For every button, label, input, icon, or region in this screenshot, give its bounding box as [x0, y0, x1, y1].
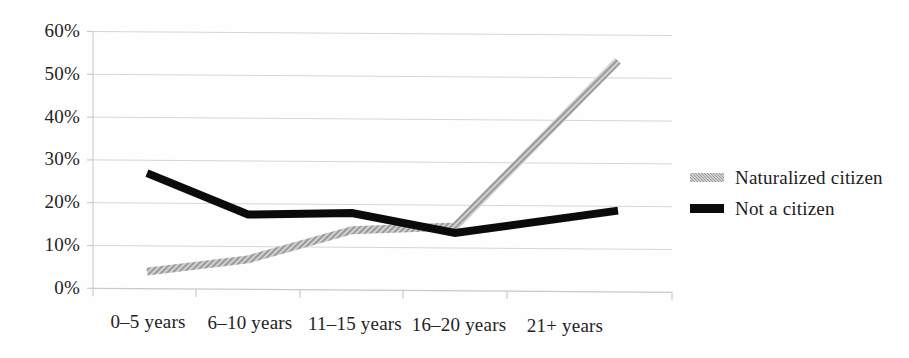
y-tick-label-40: 40% [22, 106, 80, 128]
x-tick-label-21-years: 21+ years [503, 315, 627, 337]
series-naturalized-citizen [147, 61, 618, 272]
gray-dotted-line-marker-icon [690, 173, 724, 182]
y-tick-label-20: 20% [22, 191, 80, 213]
y-tick-label-50: 50% [22, 63, 80, 85]
y-tick-marks [87, 32, 93, 289]
legend-item-naturalized-citizen: Naturalized citizen [690, 162, 883, 193]
x-axis-line [93, 288, 672, 292]
y-tick-label-0: 0% [22, 277, 80, 299]
legend-label-not-a-citizen: Not a citizen [735, 198, 835, 220]
y-tick-label-60: 60% [22, 20, 80, 42]
legend-label-naturalized-citizen: Naturalized citizen [735, 167, 883, 189]
y-tick-label-30: 30% [22, 148, 80, 170]
line-chart: 60% 50% 40% 30% 20% 10% 0% 0–5 years 6–1… [0, 0, 909, 358]
legend-item-not-a-citizen: Not a citizen [690, 193, 883, 224]
y-tick-label-10: 10% [22, 234, 80, 256]
black-solid-line-marker-icon [690, 204, 724, 213]
chart-legend: Naturalized citizen Not a citizen [690, 162, 883, 224]
series-not-a-citizen [147, 173, 618, 233]
